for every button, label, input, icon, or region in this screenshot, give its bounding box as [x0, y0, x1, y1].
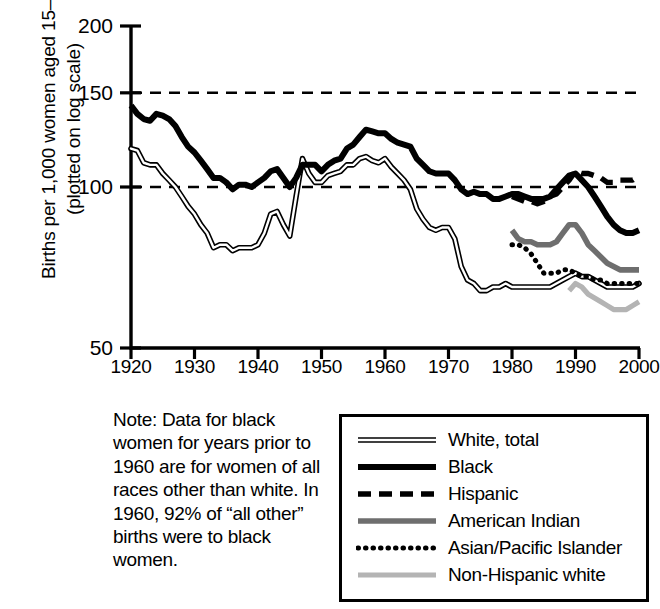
x-tick-label: 1920 — [110, 356, 151, 378]
x-axis-tick-labels: 192019301940195019601970198019902000 — [0, 356, 656, 386]
legend-swatch-icon — [356, 568, 438, 582]
legend-item[interactable]: Asian/Pacific Islander — [342, 534, 646, 561]
legend-item[interactable]: Hispanic — [342, 480, 646, 507]
legend-item[interactable]: White, total — [342, 426, 646, 453]
legend-swatch-icon — [356, 514, 438, 528]
legend-label: Hispanic — [448, 484, 518, 503]
y-tick-label: 100 — [78, 175, 113, 198]
x-tick-label: 1930 — [174, 356, 215, 378]
legend-item[interactable]: Non-Hispanic white — [342, 561, 646, 588]
y-tick-label: 200 — [78, 14, 113, 37]
legend-label: White, total — [448, 430, 539, 449]
legend-label: Asian/Pacific Islander — [448, 538, 622, 557]
legend-label: Black — [448, 457, 493, 476]
legend-swatch-icon — [356, 433, 438, 447]
series-asian-pacific-islander — [512, 245, 639, 284]
x-tick-label: 1980 — [491, 356, 532, 378]
x-tick-label: 1940 — [237, 356, 278, 378]
legend-swatch-icon — [356, 460, 438, 474]
x-tick-label: 2000 — [618, 356, 659, 378]
chart-note: Note: Data for black women for years pri… — [113, 408, 331, 572]
plot-area: 50100150200 — [0, 0, 656, 400]
series-black — [131, 106, 639, 234]
legend-swatch-icon — [356, 487, 438, 501]
y-tick-label: 150 — [78, 81, 113, 104]
x-tick-label: 1990 — [555, 356, 596, 378]
x-tick-label: 1950 — [301, 356, 342, 378]
legend-swatch-icon — [356, 541, 438, 555]
legend-label: American Indian — [448, 511, 580, 530]
x-tick-label: 1960 — [364, 356, 405, 378]
x-tick-label: 1970 — [428, 356, 469, 378]
legend-item[interactable]: American Indian — [342, 507, 646, 534]
legend-item[interactable]: Black — [342, 453, 646, 480]
legend: White, totalBlackHispanicAmerican Indian… — [339, 414, 649, 602]
legend-label: Non-Hispanic white — [448, 565, 605, 584]
